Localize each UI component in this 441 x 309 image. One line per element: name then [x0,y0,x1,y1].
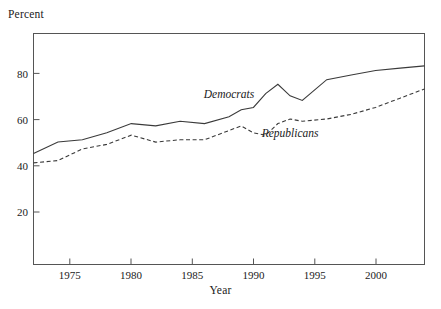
x-axis-ticks [70,259,376,265]
y-tick-label-80: 80 [17,68,29,80]
y-tick-label-40: 40 [17,160,29,172]
x-tick-label-1995: 1995 [304,269,327,281]
y-tick-label-60: 60 [17,114,29,126]
x-axis-label: Year [0,284,441,296]
x-tick-label-1975: 1975 [59,269,82,281]
x-tick-label-1980: 1980 [120,269,143,281]
series-line-democrats [34,66,425,154]
plot-area: 80 60 40 20 1975 1980 1985 1990 1995 200… [0,0,441,309]
x-tick-label-1985: 1985 [181,269,204,281]
y-axis-ticks [34,73,40,212]
x-tick-label-1990: 1990 [243,269,266,281]
series-annotation-democrats: Democrats [203,88,255,100]
series-annotation-republicans: Republicans [261,127,319,140]
plot-frame [34,34,425,265]
x-tick-label-2000: 2000 [365,269,388,281]
chart-figure: Percent 80 60 40 20 1975 1980 1985 1990 [0,0,441,309]
y-tick-label-20: 20 [17,206,29,218]
